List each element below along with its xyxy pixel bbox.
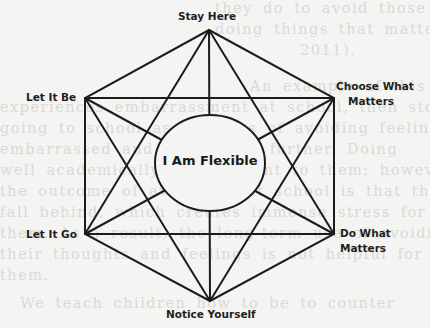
node-label-stay-here: Stay Here: [178, 9, 236, 24]
node-label-text: Do What: [340, 226, 391, 241]
node-label-text: Notice Yourself: [166, 308, 256, 320]
node-label-choose-what-matters: Choose What Matters: [336, 79, 414, 109]
node-label-notice-yourself: Notice Yourself: [166, 307, 256, 322]
node-label-text: Let It Be: [26, 91, 76, 103]
node-label-text: Matters: [336, 94, 414, 109]
center-label: I Am Flexible: [155, 153, 265, 168]
node-label-text: Let It Go: [26, 228, 77, 240]
node-label-text: Stay Here: [178, 10, 236, 22]
node-label-text: Matters: [340, 241, 391, 256]
node-label-do-what-matters: Do What Matters: [340, 226, 391, 256]
node-label-text: Choose What: [336, 79, 414, 94]
node-label-let-it-be: Let It Be: [26, 90, 76, 105]
node-label-let-it-go: Let It Go: [26, 227, 77, 242]
